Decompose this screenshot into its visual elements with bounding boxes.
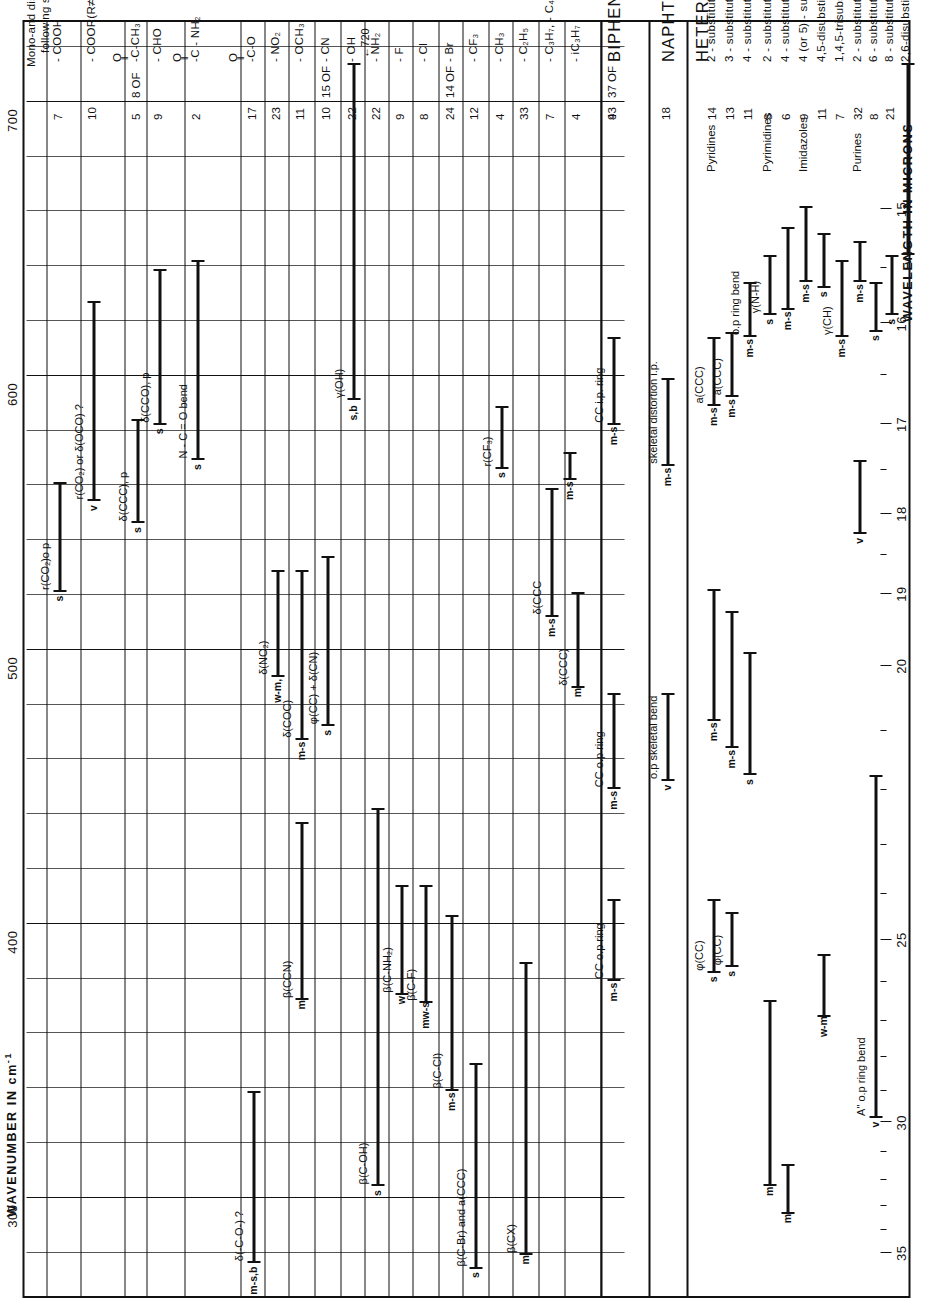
row-count: 22 (345, 107, 357, 120)
band-intensity-label: m (570, 688, 582, 697)
row-count: 9 (605, 114, 617, 120)
band-cap-right (869, 775, 882, 777)
row-separator (80, 22, 81, 1296)
row-label-cminuso: -C-O (244, 36, 256, 62)
band-intensity-label: m-s,b (246, 1267, 258, 1295)
section-separator (686, 22, 688, 1296)
band-bar (424, 885, 427, 1003)
row-count-prefix: 15 OF (319, 66, 331, 98)
band-cap-right (545, 488, 558, 490)
band-cap-left (743, 335, 756, 337)
band-assignment-label: r(CO₂)o p (38, 543, 50, 590)
band-bar (906, 63, 909, 255)
band-cap-right (725, 912, 738, 914)
band-cap-left (607, 979, 620, 981)
band-bar (822, 954, 825, 1017)
row-count-prefix: 14 OF (443, 66, 455, 98)
band-bar (58, 482, 61, 592)
band-assignment-label: N - C = O bend (176, 384, 188, 458)
intro-line-2: following substituents: (38, 0, 50, 53)
band-cap-right (885, 255, 898, 257)
band-bar (550, 488, 553, 617)
row-label-cn: - CN (318, 37, 330, 62)
wavenumber-tick-700: 700 (4, 109, 19, 132)
band-assignment-label: a(CCC) (692, 366, 704, 403)
row-count: 32 (851, 107, 863, 120)
band-cap-right (869, 282, 882, 284)
band-intensity-label: m-s (834, 339, 846, 358)
wavelength-minor-tick (880, 554, 886, 555)
band-cap-left (661, 464, 674, 466)
band-cap-right (519, 962, 532, 964)
wavelength-minor-tick (880, 1205, 886, 1206)
row-label-ic3h7: - iC₃H₇ (568, 25, 580, 62)
band-bar (874, 775, 877, 1117)
band-bar (612, 337, 615, 425)
band-intensity-label: s (370, 1190, 382, 1196)
row-separator (438, 22, 439, 1296)
row-label-br: - Br (442, 42, 454, 62)
gridline-wn-300 (26, 1197, 624, 1198)
band-cap-right (763, 1000, 776, 1002)
band-cap-left (607, 787, 620, 789)
wavelength-minor-tick (880, 1229, 886, 1230)
band-assignment-label: β(C-F) (404, 969, 416, 1001)
row-label-pm2: 2 - substituted (760, 0, 772, 62)
row-count: 7 (51, 114, 63, 120)
band-intensity-label: s (706, 976, 718, 982)
row-label-c3h7: - C₃H₇, - C₄H₉, - C₁₀H₂₁ (542, 0, 554, 62)
band-bar (666, 693, 669, 781)
band-cap-right (763, 255, 776, 257)
gridline-wn-480 (26, 704, 624, 705)
band-intensity-label: s (494, 472, 506, 478)
band-bar (712, 589, 715, 721)
band-intensity-label: v (660, 785, 672, 791)
row-count: 10 (85, 107, 97, 120)
band-assignment-label: φ(CC) + δ(CN) (306, 652, 318, 724)
band-assignment-label: skeletal distortion i.p. (646, 361, 658, 464)
row-separator (512, 22, 513, 1296)
row-label-cl: - Cl (416, 43, 428, 62)
band-cap-right (607, 337, 620, 339)
row-count: 33 (517, 107, 529, 120)
band-bar (612, 693, 615, 789)
wavelength-tick-15 (880, 208, 891, 209)
band-cap-left (835, 335, 848, 337)
row-group-py2: Pyridines (704, 125, 716, 172)
band-cap-left (661, 779, 674, 781)
band-cap-left (191, 458, 204, 460)
row-label-im45: 4 (or 5) - substituted (796, 0, 808, 62)
band-intensity-label: m-s (724, 399, 736, 418)
gridline-wn-620 (26, 320, 624, 321)
band-cap-right (295, 822, 308, 824)
row-group-pu2: Purines (850, 133, 862, 172)
row-separator (488, 22, 489, 1296)
band-assignment-label: γ(CH) (820, 306, 832, 335)
band-intensity-label: s (816, 291, 828, 297)
band-bar (276, 570, 279, 677)
band-cap-right (469, 1063, 482, 1065)
gridline-wn-280 (26, 1252, 624, 1253)
wavelength-tick-label-17: 17 (893, 417, 908, 432)
band-intensity-label: m-s (606, 983, 618, 1002)
band-cap-left (901, 253, 914, 255)
gridline-wn-540 (26, 539, 624, 540)
wavelength-minor-tick (880, 1151, 886, 1152)
row-count: 9 (151, 114, 163, 120)
row-count: 11 (293, 108, 305, 120)
band-assignment-label: β(CX) (504, 1224, 516, 1253)
wavelength-tick-label-35: 35 (893, 1245, 908, 1260)
band-assignment-label: δ(NO₂) (256, 641, 268, 675)
row-label-ch3: - CH₃ (492, 32, 504, 62)
band-assignment-label: β(C-NH₂) (380, 947, 392, 992)
band-assignment-label: a(CCC) (710, 358, 722, 395)
wavelength-minor-tick (880, 1090, 886, 1091)
wavelength-minor-tick (880, 469, 886, 470)
band-assignment-label: β(C-Cl) (430, 1053, 442, 1089)
band-cap-left (817, 286, 830, 288)
row-separator (288, 22, 289, 1296)
band-intensity-label: s (320, 730, 332, 736)
band-bar (474, 1063, 477, 1268)
band-cap-right (53, 482, 66, 484)
band-intensity-label: mw-s (418, 1002, 430, 1029)
